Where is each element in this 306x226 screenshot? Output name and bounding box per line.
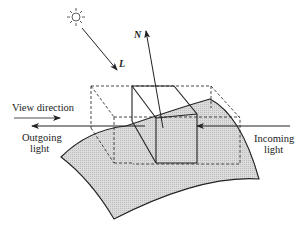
light-vector [82,28,117,70]
outgoing-light-label-line1: Outgoing [22,132,62,143]
sun-icon [67,8,85,26]
outgoing-light-label-line2: light [30,143,49,154]
incoming-light-label-line2: light [264,144,283,155]
reflection-diagram: L N View direction Outgoing light Incomi… [0,0,306,226]
normal-vector-label: N [133,29,142,40]
light-vector-label: L [118,58,125,69]
incoming-light-label-line1: Incoming [254,133,295,144]
view-direction-label: View direction [12,102,75,113]
